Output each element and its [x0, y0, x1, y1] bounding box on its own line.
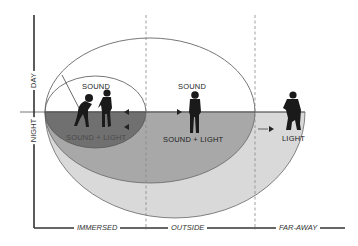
outer-light-label: LIGHT: [282, 134, 305, 143]
inner-sound-light-label: SOUND + LIGHT: [66, 133, 126, 142]
day-label: DAY: [29, 71, 38, 90]
middle-sound-label: SOUND: [178, 82, 206, 91]
diagram-canvas: [0, 0, 358, 246]
far-away-label: FAR-AWAY: [276, 223, 320, 232]
inner-sound-label: SOUND: [82, 82, 110, 91]
middle-sound-light-label: SOUND + LIGHT: [163, 135, 223, 144]
outside-label: OUTSIDE: [168, 223, 207, 232]
outer-zone-day-outline: [45, 38, 255, 112]
immersed-label: IMMERSED: [74, 223, 120, 232]
night-label: NIGHT: [29, 117, 38, 144]
